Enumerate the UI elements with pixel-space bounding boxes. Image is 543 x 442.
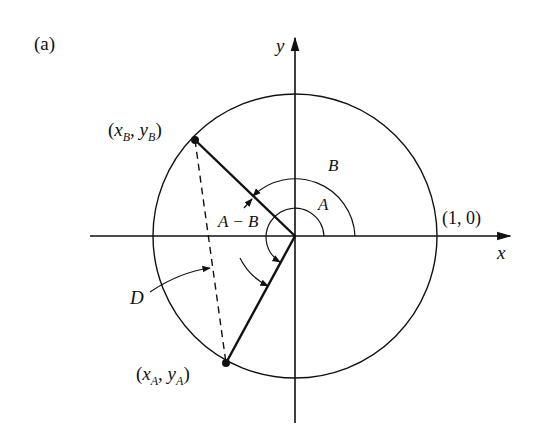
panel-label: (a) xyxy=(34,34,55,53)
subscript: B xyxy=(148,130,155,144)
point-A xyxy=(222,359,230,367)
subscript: A xyxy=(176,374,183,388)
subscript: A xyxy=(151,374,158,388)
subscript: B xyxy=(123,130,130,144)
angle-A-minus-B-label: A − B xyxy=(218,213,258,230)
angle-B-tick xyxy=(244,199,252,208)
var: y xyxy=(140,119,148,140)
point-B xyxy=(191,136,199,144)
y-axis-label: y xyxy=(276,36,284,55)
paren: ) xyxy=(155,119,161,140)
angle-A-minus-B-arc xyxy=(240,258,268,286)
point-A-label: (xA, yA) xyxy=(136,364,190,383)
comma: , xyxy=(158,363,168,384)
point-B-label: (xB, yB) xyxy=(108,120,162,139)
var: y xyxy=(168,363,176,384)
chord-D xyxy=(195,140,226,363)
var: x xyxy=(142,363,150,384)
x-axis-label: x xyxy=(497,243,505,262)
D-pointer xyxy=(150,268,210,292)
comma: , xyxy=(130,119,140,140)
angle-A-label: A xyxy=(318,196,328,213)
angle-B-label: B xyxy=(328,157,338,174)
distance-D-label: D xyxy=(130,288,144,307)
radius-to-A xyxy=(226,236,295,363)
var: x xyxy=(114,119,122,140)
reference-point-label: (1, 0) xyxy=(442,209,481,227)
paren: ) xyxy=(183,363,189,384)
